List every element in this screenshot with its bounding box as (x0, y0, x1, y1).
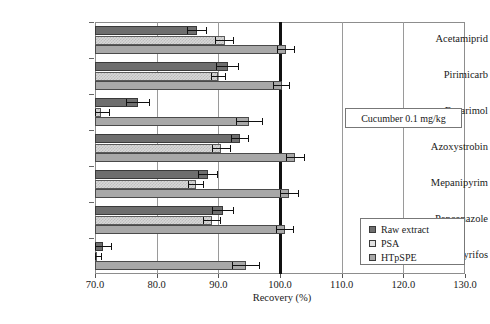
error-bar-cap-low (232, 262, 233, 269)
error-bar-cap-high (304, 154, 305, 161)
reference-line-100 (279, 22, 282, 274)
error-bar-cap-low (95, 253, 96, 260)
x-axis-title: Recovery (%) (0, 292, 488, 303)
error-bar-spine (236, 121, 263, 122)
error-bar-cap-low (212, 207, 213, 214)
bar-pirimicarb-raw (95, 62, 228, 71)
bar-penconazole-psa (95, 216, 212, 225)
error-bar-spine (273, 85, 290, 86)
x-tick-label-100: 100.0 (255, 279, 305, 290)
bar-acetamiprid-raw (95, 26, 197, 35)
bar-azoxystrobin-psa (95, 144, 221, 153)
bar-chlorpyrifos-htp (95, 261, 246, 270)
y-axis-label-mepanipyrim: Mepanipyrim (410, 177, 488, 188)
y-tick-4 (89, 166, 94, 167)
error-bar-spine (212, 148, 232, 149)
error-bar-cap-low (276, 226, 277, 233)
y-tick-5 (89, 202, 94, 203)
error-bar-acetamiprid-psa (215, 36, 234, 45)
error-bar-cap-low (126, 99, 127, 106)
x-tick-label-90: 90.0 (193, 279, 243, 290)
error-bar-cap-low (231, 135, 232, 142)
error-bar-spine (198, 174, 218, 175)
error-bar-cap-high (220, 217, 221, 224)
error-bar-acetamiprid-htp (277, 45, 296, 54)
bar-azoxystrobin-raw (95, 134, 240, 143)
bar-pirimicarb-psa (95, 72, 218, 81)
error-bar-cap-high (233, 207, 234, 214)
error-bar-cap-high (149, 99, 150, 106)
error-bar-pirimicarb-raw (216, 62, 238, 71)
error-bar-spine (95, 112, 110, 113)
x-tick-110 (342, 274, 343, 278)
bar-mepanipyrim-raw (95, 170, 208, 179)
bar-mepanipyrim-psa (95, 180, 196, 189)
y-axis-label-acetamiprid: Acetamiprid (410, 33, 488, 44)
error-bar-spine (232, 265, 260, 266)
error-bar-fenarimol-htp (236, 117, 263, 126)
bar-penconazole-raw (95, 206, 223, 215)
error-bar-chlorpyrifos-htp (232, 261, 260, 270)
error-bar-chlorpyrifos-psa (95, 252, 102, 261)
error-bar-cap-high (109, 109, 110, 116)
error-bar-azoxystrobin-psa (212, 144, 232, 153)
legend: Raw extract PSA HTpSPE (360, 218, 465, 265)
x-tick-label-80: 80.0 (132, 279, 182, 290)
error-bar-spine (276, 229, 293, 230)
error-bar-cap-low (187, 27, 188, 34)
x-tick-130 (465, 274, 466, 278)
error-bar-spine (231, 138, 250, 139)
error-bar-spine (216, 66, 238, 67)
error-bar-mepanipyrim-raw (198, 170, 218, 179)
legend-label-psa: PSA (381, 238, 399, 249)
error-bar-cap-low (203, 217, 204, 224)
error-bar-cap-low (215, 37, 216, 44)
error-bar-cap-low (198, 171, 199, 178)
error-bar-cap-low (286, 154, 287, 161)
error-bar-cap-high (206, 27, 207, 34)
error-bar-fenarimol-psa (95, 108, 110, 117)
error-bar-mepanipyrim-htp (280, 189, 299, 198)
error-bar-azoxystrobin-raw (231, 134, 250, 143)
error-bar-cap-high (259, 262, 260, 269)
error-bar-cap-high (238, 63, 239, 70)
x-tick-label-70: 70.0 (70, 279, 120, 290)
annotation-cucumber: Cucumber 0.1 mg/kg (345, 108, 462, 128)
x-tick-label-110: 110.0 (317, 279, 367, 290)
error-bar-penconazole-raw (212, 206, 234, 215)
error-bar-spine (188, 184, 204, 185)
error-bar-cap-high (230, 145, 231, 152)
legend-label-htpspe: HTpSPE (381, 252, 417, 263)
error-bar-chlorpyrifos-raw (95, 242, 112, 251)
y-tick-3 (89, 130, 94, 131)
bar-azoxystrobin-htp (95, 153, 295, 162)
error-bar-spine (215, 40, 234, 41)
error-bar-spine (212, 210, 234, 211)
bar-acetamiprid-psa (95, 36, 225, 45)
y-axis-label-pirimicarb: Pirimicarb (410, 69, 488, 80)
error-bar-cap-high (294, 46, 295, 53)
error-bar-cap-high (203, 181, 204, 188)
x-tick-label-130: 130.0 (440, 279, 490, 290)
error-bar-spine (280, 193, 299, 194)
error-bar-cap-low (216, 63, 217, 70)
error-bar-mepanipyrim-psa (188, 180, 204, 189)
legend-swatch-psa (369, 240, 376, 247)
x-tick-90 (218, 274, 219, 278)
error-bar-cap-high (101, 253, 102, 260)
error-bar-cap-high (217, 171, 218, 178)
legend-swatch-raw-extract (369, 226, 376, 233)
legend-swatch-htpspe (369, 254, 376, 261)
error-bar-spine (277, 49, 296, 50)
error-bar-cap-low (95, 243, 96, 250)
error-bar-cap-high (293, 226, 294, 233)
legend-label-raw-extract: Raw extract (381, 224, 429, 235)
bar-acetamiprid-htp (95, 45, 286, 54)
error-bar-penconazole-psa (203, 216, 222, 225)
error-bar-cap-low (273, 82, 274, 89)
error-bar-penconazole-htp (276, 225, 293, 234)
y-tick-2 (89, 94, 94, 95)
x-tick-120 (403, 274, 404, 278)
bar-mepanipyrim-htp (95, 189, 289, 198)
